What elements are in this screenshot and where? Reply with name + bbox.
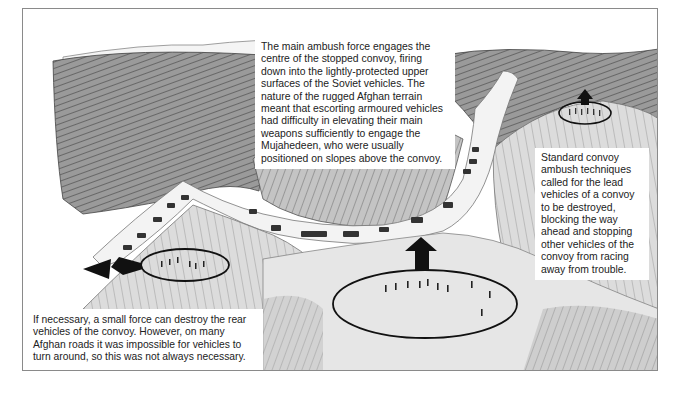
left-ridge bbox=[53, 52, 273, 214]
main-ambush-caption: The main ambush force engages the centre… bbox=[255, 37, 455, 169]
rear-vehicles-caption: If necessary, a small force can destroy … bbox=[23, 309, 263, 370]
figure-frame: The main ambush force engages the centre… bbox=[22, 8, 658, 371]
lead-vehicles-caption: Standard convoy ambush techniques called… bbox=[535, 148, 649, 280]
